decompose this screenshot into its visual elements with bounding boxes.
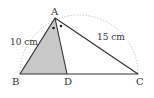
- triangle-diagram: A B D C 10 cm 15 cm: [0, 0, 154, 98]
- label-a: A: [50, 6, 59, 17]
- angle-mark-dot-2: [60, 25, 63, 28]
- label-side-ac: 15 cm: [97, 32, 125, 42]
- label-side-ab: 10 cm: [10, 37, 38, 47]
- label-d: D: [64, 76, 72, 87]
- angle-mark-dot-1: [52, 27, 55, 30]
- label-b: B: [12, 76, 19, 87]
- label-c: C: [136, 76, 144, 87]
